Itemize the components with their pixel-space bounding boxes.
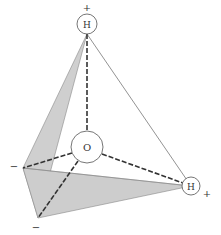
charge-left: − (10, 161, 18, 172)
oxygen-label: O (83, 142, 91, 153)
diagram-svg: O H H + + − − (0, 0, 221, 235)
charge-top: + (83, 2, 91, 13)
charge-right: + (203, 188, 211, 199)
charge-bottom: − (32, 222, 40, 233)
hydrogen-right-label: H (187, 182, 195, 192)
hydrogen-top-label: H (83, 20, 91, 30)
shaded-face-bottom (23, 168, 191, 218)
water-tetrahedron-diagram: O H H + + − − (0, 0, 221, 235)
edge-top-right (87, 34, 191, 186)
